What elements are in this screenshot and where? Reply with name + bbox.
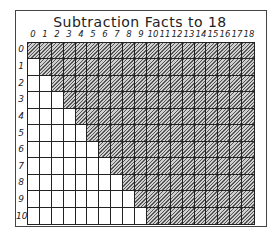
grid-cell-shaded — [159, 175, 171, 191]
grid-cell-shaded — [230, 175, 242, 191]
grid-cell-shaded — [135, 142, 147, 158]
grid-cell-shaded — [242, 158, 254, 174]
grid-cell-shaded — [218, 43, 230, 59]
grid-cell-shaded — [171, 43, 183, 59]
grid-cell-shaded — [183, 43, 195, 59]
grid-cell-shaded — [242, 125, 254, 141]
grid-cell-shaded — [111, 76, 123, 92]
grid-cell-blank — [87, 142, 99, 158]
grid-cell-shaded — [76, 59, 88, 75]
grid-cell-blank — [40, 142, 52, 158]
column-header: 7 — [111, 29, 123, 39]
grid-cell-shaded — [171, 191, 183, 207]
grid-cell-shaded — [206, 158, 218, 174]
grid-cell-shaded — [218, 76, 230, 92]
grid-cell-shaded — [135, 175, 147, 191]
grid-cell-shaded — [147, 76, 159, 92]
grid-cell-blank — [40, 76, 52, 92]
grid-cell-blank — [76, 142, 88, 158]
row-header: 8 — [16, 177, 26, 187]
grid-cell-shaded — [159, 59, 171, 75]
grid-cell-shaded — [195, 175, 207, 191]
grid-cell-shaded — [123, 125, 135, 141]
column-header: 3 — [63, 29, 75, 39]
column-header: 15 — [207, 29, 219, 39]
grid-cell-shaded — [76, 43, 88, 59]
grid-cell-shaded — [230, 125, 242, 141]
grid-cell-blank — [99, 191, 111, 207]
grid-cell-blank — [87, 191, 99, 207]
grid-cell-shaded — [171, 208, 183, 224]
grid-cell-shaded — [64, 92, 76, 108]
grid-cell-blank — [111, 208, 123, 224]
grid-cell-shaded — [171, 142, 183, 158]
grid-cell-shaded — [230, 43, 242, 59]
grid-cell-shaded — [230, 59, 242, 75]
subtraction-grid — [27, 42, 255, 225]
grid-cell-shaded — [147, 43, 159, 59]
grid-cell-shaded — [159, 109, 171, 125]
column-header: 0 — [27, 29, 39, 39]
grid-cell-shaded — [147, 92, 159, 108]
column-header: 8 — [123, 29, 135, 39]
grid-cell-shaded — [218, 125, 230, 141]
grid-cell-blank — [99, 208, 111, 224]
grid-cell-shaded — [206, 59, 218, 75]
grid-cell-blank — [40, 208, 52, 224]
grid-cell-shaded — [218, 158, 230, 174]
grid-cell-blank — [40, 109, 52, 125]
grid-cell-shaded — [123, 109, 135, 125]
grid-cell-shaded — [111, 92, 123, 108]
row-header: 6 — [16, 144, 26, 154]
grid-cell-shaded — [242, 109, 254, 125]
grid-cell-shaded — [242, 142, 254, 158]
grid-cell-shaded — [123, 142, 135, 158]
grid-cell-shaded — [147, 191, 159, 207]
grid-cell-blank — [52, 175, 64, 191]
grid-cell-shaded — [99, 43, 111, 59]
grid-cell-shaded — [159, 125, 171, 141]
grid-cell-shaded — [159, 43, 171, 59]
grid-cell-shaded — [64, 43, 76, 59]
grid-cell-shaded — [159, 208, 171, 224]
grid-cell-blank — [64, 158, 76, 174]
grid-cell-shaded — [147, 208, 159, 224]
column-header: 16 — [219, 29, 231, 39]
grid-cell-shaded — [87, 92, 99, 108]
column-header: 6 — [99, 29, 111, 39]
grid-cell-shaded — [206, 125, 218, 141]
grid-cell-blank — [28, 158, 40, 174]
grid-cell-shaded — [76, 76, 88, 92]
grid-cell-shaded — [111, 142, 123, 158]
grid-cell-blank — [40, 175, 52, 191]
grid-cell-shaded — [183, 59, 195, 75]
grid-cell-shaded — [195, 43, 207, 59]
grid-cell-blank — [123, 208, 135, 224]
grid-cell-shaded — [242, 43, 254, 59]
grid-cell-blank — [52, 142, 64, 158]
grid-cell-shaded — [206, 109, 218, 125]
grid-cell-blank — [28, 208, 40, 224]
grid-cell-shaded — [242, 175, 254, 191]
grid-cell-shaded — [147, 175, 159, 191]
grid-cell-shaded — [206, 92, 218, 108]
row-header: 7 — [16, 161, 26, 171]
grid-cell-shaded — [147, 142, 159, 158]
grid-cell-shaded — [87, 109, 99, 125]
grid-cell-shaded — [147, 125, 159, 141]
grid-cell-shaded — [230, 208, 242, 224]
grid-cell-shaded — [28, 43, 40, 59]
grid-cell-blank — [28, 92, 40, 108]
row-header: 5 — [16, 128, 26, 138]
grid-cell-shaded — [206, 76, 218, 92]
grid-cell-shaded — [123, 175, 135, 191]
grid-cell-blank — [40, 125, 52, 141]
grid-cell-blank — [87, 175, 99, 191]
grid-cell-blank — [52, 158, 64, 174]
grid-cell-blank — [64, 142, 76, 158]
grid-cell-shaded — [171, 59, 183, 75]
grid-cell-shaded — [183, 109, 195, 125]
grid-cell-shaded — [99, 142, 111, 158]
grid-cell-shaded — [135, 92, 147, 108]
grid-cell-shaded — [159, 76, 171, 92]
